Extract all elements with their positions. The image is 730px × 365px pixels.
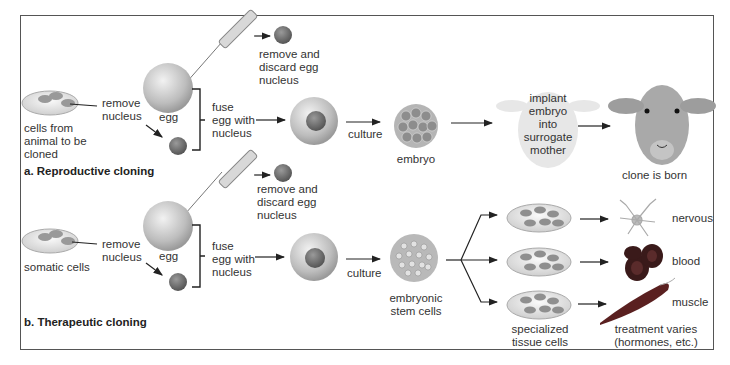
- source-cells-label: cells from animal to be cloned: [24, 122, 87, 161]
- remove-nucleus-label: remove nucleus: [102, 238, 142, 264]
- treatment-label: treatment varies (hormones, etc.): [606, 323, 706, 349]
- outcome-nervous: nervous: [672, 212, 713, 225]
- clone-born-label: clone is born: [622, 169, 687, 182]
- stem-cells-label: embryonic stem cells: [386, 292, 446, 318]
- embryo-label: embryo: [388, 153, 444, 166]
- culture-label: culture: [347, 267, 382, 280]
- muscle-cell-icon: [600, 278, 675, 325]
- discard-nucleus-label: remove and discard egg nucleus: [257, 183, 318, 222]
- diagram-artwork: [0, 0, 730, 365]
- nerve-cell-icon: [620, 199, 656, 236]
- discarded-nucleus-icon: [274, 164, 292, 182]
- stem-cells-icon: [390, 234, 438, 282]
- embryo-icon: [394, 104, 438, 148]
- nucleus-icon: [169, 137, 187, 155]
- blood-cells-icon: [624, 244, 663, 281]
- bracket: [192, 225, 205, 287]
- egg-label: egg: [159, 111, 178, 124]
- egg-label: egg: [159, 250, 178, 263]
- egg-cell-icon: [143, 63, 193, 113]
- egg-cell-icon: [143, 201, 193, 251]
- culture-label: culture: [348, 128, 383, 141]
- panel-b-title: b. Therapeutic cloning: [24, 316, 147, 328]
- fuse-label: fuse egg with nucleus: [212, 240, 255, 279]
- implant-label: implant embryo into surrogate mother: [510, 92, 586, 157]
- branch-arrows: [446, 215, 497, 302]
- bracket: [192, 89, 205, 150]
- panel-a-title: a. Reproductive cloning: [24, 165, 154, 177]
- nucleus-icon: [169, 273, 187, 291]
- outcome-blood: blood: [672, 255, 700, 268]
- remove-nucleus-label: remove nucleus: [102, 97, 142, 123]
- discard-nucleus-label: remove and discard egg nucleus: [259, 48, 320, 87]
- fuse-label: fuse egg with nucleus: [212, 101, 255, 140]
- tissue-cells-label: specialized tissue cells: [505, 323, 575, 349]
- cloned-sheep-icon: [608, 85, 716, 165]
- tissue-dish-icons: [507, 204, 571, 319]
- discarded-nucleus-icon: [274, 26, 292, 44]
- outcome-muscle: muscle: [672, 296, 708, 309]
- somatic-cells-label: somatic cells: [24, 261, 90, 274]
- petri-dish-icon: [22, 91, 78, 115]
- syringe-icon: [178, 149, 258, 222]
- petri-dish-icon: [22, 229, 78, 253]
